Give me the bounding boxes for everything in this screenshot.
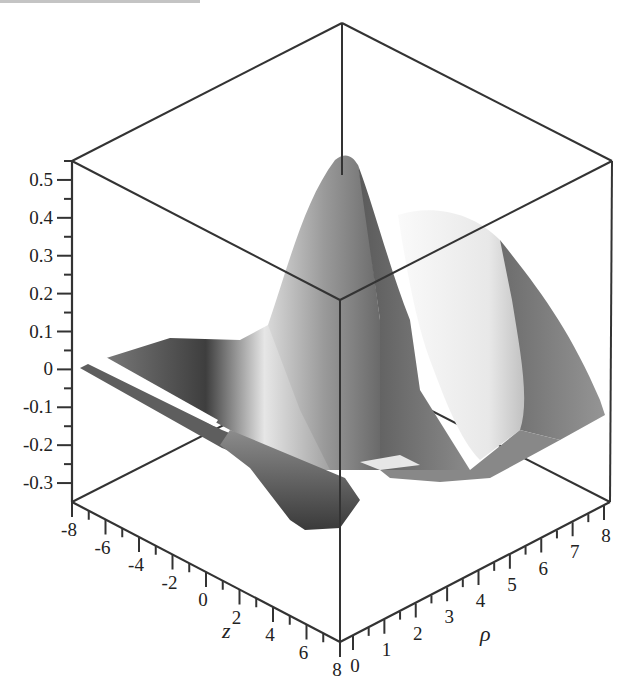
z-axis-title: z: [221, 618, 231, 643]
rho-axis-tick-label: 1: [382, 639, 392, 660]
vertical-axis-tick-label: -0.2: [23, 434, 53, 455]
z-axis-tick-label: 8: [332, 659, 342, 680]
z-axis: -8-6-4-202468: [61, 502, 342, 680]
z-axis-tick-label: 6: [299, 642, 309, 663]
rho-axis-tick-label: 7: [570, 541, 580, 562]
z-axis-tick-label: -4: [128, 554, 144, 575]
rho-axis-line: [340, 502, 610, 642]
vertical-axis-tick-label: 0.4: [29, 207, 53, 228]
z-axis-tick-label: 4: [265, 624, 275, 645]
vertical-axis-tick-label: 0.2: [29, 283, 53, 304]
vertical-axis-tick-label: 0.1: [29, 321, 53, 342]
surface-plot: -0.3-0.2-0.100.10.20.30.40.5 -8-6-4-2024…: [0, 0, 635, 688]
box-edge-top-left-back: [72, 23, 342, 161]
rho-axis-tick-label: 3: [444, 606, 454, 627]
vertical-axis-tick-label: 0.3: [29, 245, 53, 266]
box-edge-top-right-back: [342, 23, 612, 161]
z-axis-tick-label: 2: [232, 607, 242, 628]
vertical-axis-tick-label: -0.3: [23, 472, 53, 493]
vertical-axis-tick-label: 0.5: [29, 169, 53, 190]
box-edge-right-vertical: [610, 161, 612, 502]
z-axis-tick-label: 0: [198, 589, 208, 610]
rho-axis-tick-label: 5: [507, 574, 517, 595]
rho-axis-tick-label: 8: [601, 525, 611, 546]
vertical-axis-tick-label: -0.1: [23, 396, 53, 417]
z-axis-tick-label: -2: [162, 572, 178, 593]
rho-axis: 012345678: [340, 502, 611, 676]
rho-axis-tick-label: 0: [350, 655, 360, 676]
rho-axis-tick-label: 4: [476, 590, 486, 611]
surface: [80, 155, 605, 530]
z-axis-tick-label: -6: [95, 537, 111, 558]
z-axis-tick-label: -8: [61, 519, 77, 540]
rho-axis-title: ρ: [479, 621, 491, 646]
vertical-axis: -0.3-0.2-0.100.10.20.30.40.5: [23, 161, 72, 502]
vertical-axis-tick-label: 0: [44, 358, 54, 379]
rho-axis-tick-label: 6: [539, 558, 549, 579]
rho-axis-tick-label: 2: [413, 623, 423, 644]
